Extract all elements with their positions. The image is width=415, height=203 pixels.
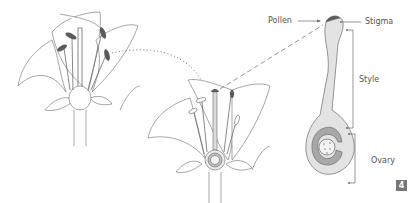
figure-number-badge: 4 xyxy=(396,180,407,191)
pistil-detail-illustration xyxy=(306,16,354,174)
label-stigma: Stigma xyxy=(365,18,393,26)
label-ovary: Ovary xyxy=(371,157,395,165)
cutaway-flower-illustration xyxy=(148,79,270,203)
dashed-zoom-line xyxy=(220,25,323,89)
flower-pollination-diagram xyxy=(0,0,415,203)
label-style: Style xyxy=(359,76,379,84)
label-pollen: Pollen xyxy=(268,17,292,25)
whole-flower-illustration xyxy=(18,12,140,146)
